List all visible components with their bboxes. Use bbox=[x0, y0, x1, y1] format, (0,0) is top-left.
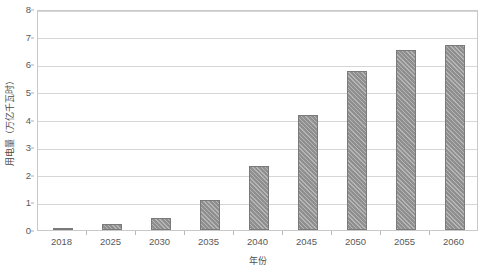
x-tick-label: 2025 bbox=[100, 236, 121, 247]
plot-area bbox=[37, 10, 478, 231]
x-tick-mark bbox=[86, 231, 87, 235]
x-tick-label: 2050 bbox=[345, 236, 366, 247]
x-tick-mark bbox=[282, 231, 283, 235]
bars-layer bbox=[38, 11, 477, 230]
x-tick-mark bbox=[429, 231, 430, 235]
y-axis-title: 用电量（万亿千瓦时） bbox=[0, 0, 18, 240]
bar-slot bbox=[185, 11, 234, 230]
bar[interactable] bbox=[102, 224, 122, 230]
x-tick-label: 2060 bbox=[443, 236, 464, 247]
bar[interactable] bbox=[445, 45, 465, 230]
bar[interactable] bbox=[347, 71, 367, 230]
bar[interactable] bbox=[396, 50, 416, 230]
bar-slot bbox=[136, 11, 185, 230]
x-tick-label: 2040 bbox=[247, 236, 268, 247]
x-tick-label: 2018 bbox=[51, 236, 72, 247]
x-tick-label: 2030 bbox=[149, 236, 170, 247]
x-tick-mark bbox=[184, 231, 185, 235]
x-tick-mark bbox=[380, 231, 381, 235]
y-tick-mark bbox=[31, 231, 34, 232]
y-tick-mark bbox=[31, 92, 34, 93]
bar[interactable] bbox=[200, 200, 220, 230]
x-tick-label: 2045 bbox=[296, 236, 317, 247]
bar-slot bbox=[381, 11, 430, 230]
x-axis-tick-marks bbox=[37, 231, 478, 235]
y-tick-mark bbox=[31, 175, 34, 176]
x-tick-mark bbox=[135, 231, 136, 235]
y-axis-title-label: 用电量（万亿千瓦时） bbox=[3, 75, 16, 165]
x-tick-mark bbox=[331, 231, 332, 235]
bar-slot bbox=[283, 11, 332, 230]
x-tick-label: 2035 bbox=[198, 236, 219, 247]
bar-slot bbox=[87, 11, 136, 230]
y-tick-mark bbox=[31, 37, 34, 38]
bar-chart: 用电量（万亿千瓦时） 012345678 2018202520302035204… bbox=[0, 0, 486, 278]
bar-slot bbox=[332, 11, 381, 230]
y-tick-mark bbox=[31, 10, 34, 11]
x-tick-mark bbox=[233, 231, 234, 235]
bar-slot bbox=[38, 11, 87, 230]
bar-slot bbox=[234, 11, 283, 230]
y-tick-mark bbox=[31, 148, 34, 149]
bar[interactable] bbox=[298, 115, 318, 230]
y-axis-tick-labels: 012345678 bbox=[18, 10, 34, 231]
x-tick-label: 2055 bbox=[394, 236, 415, 247]
bar[interactable] bbox=[249, 166, 269, 230]
y-tick-mark bbox=[31, 120, 34, 121]
y-tick-mark bbox=[31, 65, 34, 66]
x-axis-tick-labels: 201820252030203520402045205020552060 bbox=[37, 236, 478, 252]
bar[interactable] bbox=[53, 228, 73, 230]
bar-slot bbox=[430, 11, 479, 230]
bar[interactable] bbox=[151, 218, 171, 230]
y-tick-mark bbox=[31, 203, 34, 204]
x-axis-title: 年份 bbox=[37, 254, 478, 267]
